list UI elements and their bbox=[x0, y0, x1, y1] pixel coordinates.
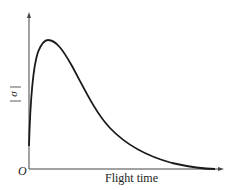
y-axis-label: σ bbox=[7, 91, 19, 96]
chart-plot bbox=[0, 0, 233, 190]
sigma-curve bbox=[29, 40, 215, 169]
origin-label: O bbox=[18, 164, 27, 179]
x-axis-label: Flight time bbox=[105, 171, 158, 186]
y-axis-arrow-icon bbox=[27, 12, 31, 18]
x-axis-arrow-icon bbox=[218, 167, 224, 171]
